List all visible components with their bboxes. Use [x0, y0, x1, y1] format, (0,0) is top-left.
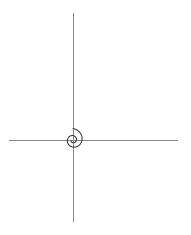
- plot-background: [0, 0, 191, 235]
- plot-canvas: [0, 0, 191, 235]
- spiral-figure: [0, 0, 191, 235]
